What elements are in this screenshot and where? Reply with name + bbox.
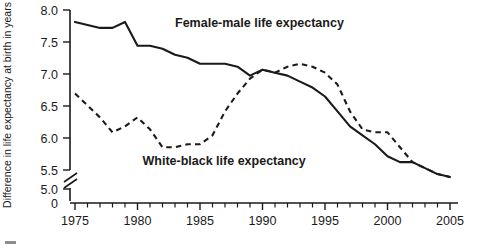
- x-tick-label-1995: 1995: [311, 214, 339, 228]
- y-tick-label-5.5: 5.5: [41, 164, 58, 178]
- x-tick-label-1990: 1990: [249, 214, 277, 228]
- series-label-female-male: Female-male life expectancy: [175, 16, 344, 30]
- x-tick-label-1985: 1985: [186, 214, 214, 228]
- x-axis: 1975198019851990199520002005: [61, 203, 464, 228]
- x-tick-label-2000: 2000: [374, 214, 402, 228]
- x-tick-label-group: 1975198019851990199520002005: [61, 214, 464, 228]
- y-axis-title: Difference in life expectancy at birth i…: [1, 2, 13, 208]
- y-tick-label-8: 8.0: [41, 4, 58, 18]
- y-tick-label-6.5: 6.5: [41, 100, 58, 114]
- x-tick-label-1975: 1975: [61, 214, 89, 228]
- life-expectancy-difference-chart: Difference in life expectancy at birth i…: [0, 0, 484, 252]
- x-tick-label-2005: 2005: [436, 214, 464, 228]
- y-tick-label-6: 6.0: [41, 132, 58, 146]
- y-axis-break-icon: [64, 173, 77, 188]
- y-axis: 8.0 7.5 7.0 6.5 6.0 5.5 5.0 0: [41, 4, 77, 211]
- chart-svg: Difference in life expectancy at birth i…: [0, 0, 484, 252]
- series-label-white-black: White-black life expectancy: [143, 154, 306, 168]
- y-tick-label-5: 5.0: [41, 183, 58, 197]
- page-corner-mark: [5, 241, 16, 244]
- y-tick-label-0: 0: [51, 197, 58, 211]
- annotation-group: Female-male life expectancy White-black …: [143, 16, 344, 168]
- x-tick-group: [75, 203, 450, 210]
- y-tick-label-7.5: 7.5: [41, 36, 58, 50]
- y-tick-label-7: 7.0: [41, 68, 58, 82]
- x-tick-label-1980: 1980: [124, 214, 152, 228]
- y-axis-title-group: Difference in life expectancy at birth i…: [1, 2, 13, 208]
